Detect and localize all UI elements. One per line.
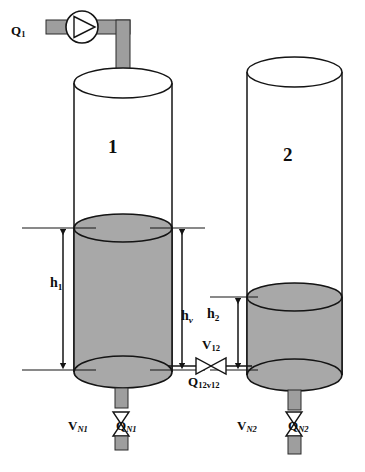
coupling-valve-left-triangle-icon <box>196 358 211 374</box>
tank-2-top-rim <box>247 57 342 87</box>
drain-1-lower-pipe <box>115 436 128 450</box>
label-flow-q12v12: Q12v12 <box>188 375 220 388</box>
tank-2-liquid-surface <box>247 283 342 311</box>
two-tank-process-diagram <box>0 0 365 472</box>
tank-1-top-rim <box>74 68 172 98</box>
coupling-valve-right-triangle-icon <box>211 358 226 374</box>
label-height-hv: hv <box>181 309 193 323</box>
tank-2-bottom <box>247 359 342 391</box>
label-flow-qn2: QN2 <box>288 419 309 432</box>
tank-1-bottom <box>74 356 172 388</box>
label-height-h2: h2 <box>207 307 219 321</box>
label-valve-vn2: VN2 <box>237 419 257 432</box>
drain-1-upper-pipe <box>115 388 128 408</box>
label-valve-vn1: VN1 <box>68 419 88 432</box>
label-tank-2: 2 <box>283 145 293 164</box>
label-height-h1: h1 <box>50 276 62 290</box>
label-tank-1: 1 <box>108 137 118 156</box>
tank-1-liquid-body <box>74 228 172 372</box>
label-valve-v12: V12 <box>202 338 220 351</box>
label-flow-qn1: QN1 <box>116 419 137 432</box>
label-inflow-q1: Q1 <box>11 24 25 37</box>
drain-2-upper-pipe <box>288 390 301 410</box>
drain-2-lower-pipe <box>288 436 301 454</box>
